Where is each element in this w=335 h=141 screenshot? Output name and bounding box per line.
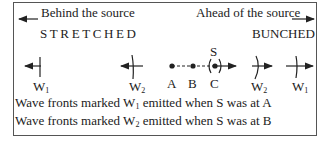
wavefront-left-w2-icon	[121, 55, 143, 79]
wavefront-right-w2-icon	[252, 56, 272, 79]
wavefront-left-w1-icon	[25, 57, 41, 77]
point-a-icon	[169, 63, 174, 68]
wavefront-label-right-w2: W2	[251, 79, 267, 95]
wavefront-label-right-w1: W1	[292, 79, 308, 95]
note-w1: Wave fronts marked W1 emitted when S was…	[15, 95, 272, 111]
wavefront-label-left-w1: W1	[33, 79, 49, 95]
source-path-icon	[169, 59, 236, 73]
position-b-label: B	[188, 76, 197, 92]
bunched-label: BUNCHED	[252, 26, 315, 42]
wavefront-label-left-w2: W2	[129, 79, 145, 95]
point-b-icon	[190, 63, 195, 68]
ahead-source-label: Ahead of the source	[196, 5, 300, 21]
position-a-label: A	[167, 76, 176, 92]
note-w2: Wave fronts marked W2 emitted when S was…	[15, 113, 272, 129]
wavefront-right-w1-icon	[286, 56, 313, 78]
position-c-label: C	[210, 76, 219, 92]
source-label: S	[210, 44, 217, 60]
stretched-label: STRETCHED	[40, 26, 139, 42]
behind-source-label: Behind the source	[41, 5, 135, 21]
